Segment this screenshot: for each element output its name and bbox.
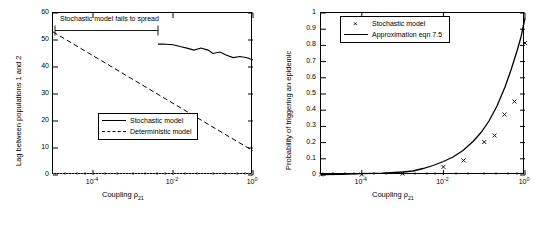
x-tick-label-1e0: 100 <box>236 178 268 185</box>
figure-container: Stochastic model fails to spread 0 10 20… <box>0 0 545 225</box>
y-tick-label-30: 30 <box>33 89 49 96</box>
x-axis-label-right: Coupling ρ21 <box>372 190 414 201</box>
legend-left: Stochastic model Deterministic model <box>102 115 191 137</box>
y-tick-label-r-02: 0.2 <box>296 138 316 145</box>
x-ticks-left <box>93 13 253 175</box>
y-axis-label-right: Probability of triggering an epidemic <box>284 51 293 170</box>
legend-label-approximation: Approximation eqn 7.5 <box>372 31 442 38</box>
y-tick-label-50: 50 <box>33 35 49 42</box>
y-tick-label-10: 10 <box>33 143 49 150</box>
y-ticks-left <box>53 13 253 175</box>
x-axis-label-left: Coupling ρ21 <box>102 190 144 201</box>
x-tick-label-r-1e-2: 10-2 <box>426 178 458 185</box>
legend-item-approximation: Approximation eqn 7.5 <box>344 29 442 40</box>
legend-key-x-marker: × <box>344 19 368 28</box>
series-stochastic-model <box>158 44 253 60</box>
legend-item-deterministic-left: Deterministic model <box>102 126 191 137</box>
y-tick-label-r-04: 0.4 <box>296 105 316 112</box>
chart-panel-right: 0 0.1 0.2 0.3 0.4 0.5 0.6 0.7 0.8 0.9 1 … <box>272 0 545 225</box>
x-tick-label-r-1e0: 100 <box>508 178 540 185</box>
y-tick-label-r-08: 0.8 <box>296 40 316 47</box>
y-tick-label-r-0: 0 <box>300 170 316 177</box>
legend-item-stochastic-right: × Stochastic model <box>344 18 442 29</box>
legend-right: × Stochastic model Approximation eqn 7.5 <box>344 18 442 40</box>
legend-label-stochastic-left: Stochastic model <box>130 117 183 124</box>
y-axis-label-left: Lag between populations 1 and 2 <box>14 55 23 166</box>
legend-label-stochastic-right: Stochastic model <box>372 20 425 27</box>
y-tick-label-20: 20 <box>33 116 49 123</box>
y-tick-label-r-06: 0.6 <box>296 73 316 80</box>
legend-label-deterministic-left: Deterministic model <box>130 128 191 135</box>
annotation-fails-to-spread: Stochastic model fails to spread <box>60 15 159 22</box>
legend-key-dashed-line <box>102 127 126 136</box>
y-tick-label-40: 40 <box>33 62 49 69</box>
y-tick-label-r-01: 0.1 <box>296 154 316 161</box>
y-tick-label-r-05: 0.5 <box>296 89 316 96</box>
plot-svg-left <box>53 13 253 175</box>
y-tick-label-r-07: 0.7 <box>296 57 316 64</box>
legend-key-solid-line <box>102 116 126 125</box>
y-tick-label-r-1: 1 <box>300 8 316 15</box>
plot-area-left <box>52 12 252 174</box>
x-tick-label-r-1e-4: 10-4 <box>345 178 377 185</box>
y-tick-label-r-09: 0.9 <box>296 24 316 31</box>
y-tick-label-60: 60 <box>33 8 49 15</box>
y-tick-label-0: 0 <box>37 170 49 177</box>
x-tick-label-1e-2: 10-2 <box>156 178 188 185</box>
legend-key-solid-line-right <box>344 30 368 39</box>
fails-to-spread-bracket <box>55 26 158 36</box>
y-tick-label-r-03: 0.3 <box>296 121 316 128</box>
chart-panel-left: Stochastic model fails to spread 0 10 20… <box>0 0 272 225</box>
legend-item-stochastic-left: Stochastic model <box>102 115 191 126</box>
x-tick-label-1e-4: 10-4 <box>76 178 108 185</box>
